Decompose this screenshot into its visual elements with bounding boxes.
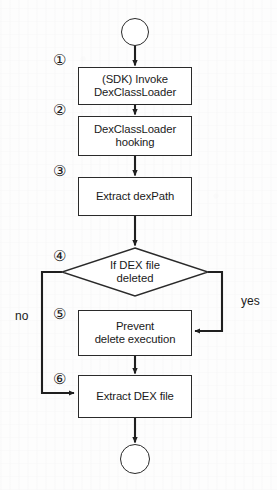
step-box-5-prevent-delete-execution[interactable]: Prevent delete execution: [78, 310, 192, 356]
step-box-5-line2: delete execution: [95, 333, 176, 347]
step-marker-1: ①: [50, 51, 68, 69]
branch-label-yes: yes: [241, 294, 260, 308]
step-decision-4-line1: If DEX file: [62, 259, 208, 273]
step-box-2-line1: DexClassLoader: [94, 123, 176, 137]
step-marker-3: ③: [50, 162, 68, 180]
step-box-2-dexclassloader-hooking[interactable]: DexClassLoader hooking: [78, 116, 192, 156]
step-box-1-line1: (SDK) Invoke: [94, 73, 176, 87]
step-decision-4-line2: deleted: [62, 272, 208, 286]
step-box-1-line2: DexClassLoader: [94, 86, 176, 100]
flowchart-canvas: ① (SDK) Invoke DexClassLoader ② DexClass…: [0, 0, 277, 490]
step-marker-5: ⑤: [50, 305, 68, 323]
step-box-1-invoke-dexclassloader[interactable]: (SDK) Invoke DexClassLoader: [78, 67, 192, 105]
step-marker-2: ②: [50, 101, 68, 119]
branch-label-no: no: [15, 309, 28, 323]
step-box-5-line1: Prevent: [95, 320, 176, 334]
step-box-6-line1: Extract DEX file: [96, 390, 174, 404]
end-terminator: [120, 444, 150, 474]
step-box-3-extract-dexpath[interactable]: Extract dexPath: [78, 177, 192, 216]
step-box-6-extract-dex-file[interactable]: Extract DEX file: [78, 375, 192, 418]
step-box-2-line2: hooking: [94, 136, 176, 150]
step-box-3-line1: Extract dexPath: [96, 190, 174, 204]
start-terminator: [121, 18, 149, 46]
step-decision-4-if-dex-file-deleted[interactable]: If DEX file deleted: [62, 248, 208, 296]
step-marker-6: ⑥: [50, 370, 68, 388]
